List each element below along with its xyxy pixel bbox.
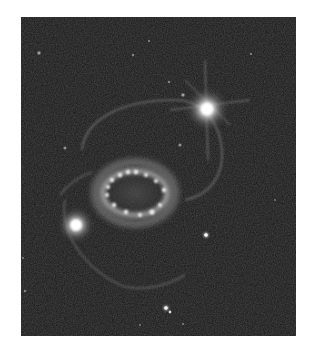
photo-canvas: [21, 17, 296, 336]
bright-star-lower-left: [58, 207, 94, 243]
astronomical-photo: [21, 17, 296, 336]
central-ring: [87, 155, 183, 231]
